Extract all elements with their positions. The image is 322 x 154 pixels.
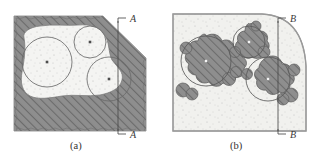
panel-b: B B (b) xyxy=(173,13,306,153)
panel-b-caption: (b) xyxy=(230,140,243,152)
panel-a-caption: (a) xyxy=(70,140,82,152)
circle-center-mark xyxy=(46,61,49,64)
circle-center-mark xyxy=(108,78,111,81)
figure-canvas: A A (a) xyxy=(0,0,322,154)
circle-center-mark xyxy=(205,60,207,62)
section-arrow-tick xyxy=(118,18,126,23)
circle-center-mark xyxy=(89,41,92,44)
section-label-a-bottom: A xyxy=(129,129,137,140)
panel-a: A A (a) xyxy=(14,13,146,153)
section-label-a-top: A xyxy=(129,13,137,24)
circle-center-mark xyxy=(267,78,269,80)
section-label-b-top: B xyxy=(290,13,296,24)
section-label-b-bottom: B xyxy=(290,129,296,140)
circle-center-mark xyxy=(248,41,250,43)
figure-root: A A (a) xyxy=(0,0,322,154)
